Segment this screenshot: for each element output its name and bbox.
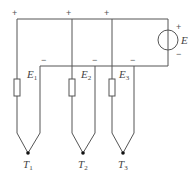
thermocouple-3 [109,19,134,155]
thermocouple-2 [69,19,95,155]
plus-sign-2: + [66,8,71,18]
minus-sign-2: − [92,55,97,65]
junction-1-icon [26,151,30,155]
minus-sign-3: − [130,55,135,65]
thermocouple-label-3: T3 [118,158,128,172]
resistor-2-icon [69,79,75,96]
thermocouple-1 [14,19,40,155]
source-minus-sign: − [176,49,181,59]
junction-2-icon [81,151,85,155]
emf-label-2: E2 [80,68,92,82]
source-plus-sign: + [176,22,181,32]
emf-label-1: E1 [26,68,38,82]
thermocouple-label-1: T1 [23,158,33,172]
junction-3-icon [121,151,125,155]
emf-label-3: E3 [118,68,130,82]
resistor-1-icon [14,79,20,96]
plus-sign-3: + [104,8,109,18]
circuit-diagram: + + + + − − − − E E1 E2 E3 T1 T2 T3 [0,0,195,180]
source-label: E [180,34,188,46]
plus-sign-1: + [12,8,17,18]
thermocouple-label-2: T2 [78,158,88,172]
minus-sign-1: − [41,55,46,65]
resistor-3-icon [109,79,115,96]
